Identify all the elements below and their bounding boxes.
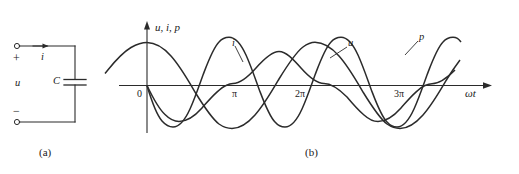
tick-label-pi: π [232, 89, 237, 99]
curve-p [147, 37, 461, 127]
tick-label-2pi: 2π [295, 89, 305, 99]
waveform-plot [0, 0, 519, 174]
tick-label-3pi: 3π [394, 89, 404, 99]
origin-tick-label: 0 [137, 89, 142, 99]
leader-line-p [405, 41, 418, 55]
y-axis-label: u, i, p [155, 22, 180, 33]
y-axis-arrowhead [144, 21, 150, 30]
figure-container: + − u i C (a) u, i, p ωt 0 π 2π 3π i u p… [0, 0, 519, 174]
curve-label-i: i [232, 38, 235, 49]
panel-b-caption: (b) [305, 147, 318, 158]
curve-label-p: p [419, 32, 424, 43]
curve-label-u: u [348, 38, 353, 49]
x-axis-label: ωt [465, 88, 476, 99]
x-axis-arrowhead [483, 82, 492, 88]
